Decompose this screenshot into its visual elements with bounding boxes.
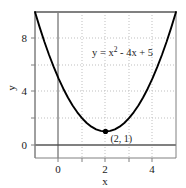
y-tick-label-4: 4 [22, 85, 28, 97]
y-axis-ticks [31, 38, 35, 145]
equation-annotation: y = x2 - 4x + 5 [92, 45, 153, 58]
x-axis-title: x [102, 175, 108, 187]
y-axis-title: y [5, 85, 17, 91]
vertex-point-label: (2, 1) [111, 133, 133, 145]
y-tick-label-8: 8 [22, 32, 28, 44]
y-tick-label-0: 0 [22, 139, 28, 151]
x-axis-ticks [58, 158, 152, 162]
chart-svg: (2, 1) y = x2 - 4x + 5 0 4 8 0 2 4 x y [0, 0, 186, 188]
x-tick-label-4: 4 [149, 163, 155, 175]
x-tick-label-2: 2 [102, 163, 108, 175]
x-tick-label-0: 0 [55, 163, 61, 175]
parabola-plot-figure: (2, 1) y = x2 - 4x + 5 0 4 8 0 2 4 x y [0, 0, 186, 188]
vertex-point-marker [103, 129, 108, 134]
equation-tail: - 4x + 5 [117, 47, 153, 58]
equation-lead: y = x [92, 47, 114, 58]
